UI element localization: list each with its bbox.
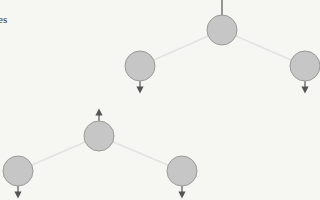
upper-tree-child-node-1 bbox=[125, 51, 155, 81]
tree-diagram bbox=[0, 0, 320, 200]
upper-tree-parent-node bbox=[207, 15, 237, 45]
lower-tree-child-node-1 bbox=[3, 156, 33, 186]
lower-tree-parent-node bbox=[84, 121, 114, 151]
lower-tree-child-node-2 bbox=[167, 156, 197, 186]
upper-tree-child-node-2 bbox=[290, 51, 320, 81]
